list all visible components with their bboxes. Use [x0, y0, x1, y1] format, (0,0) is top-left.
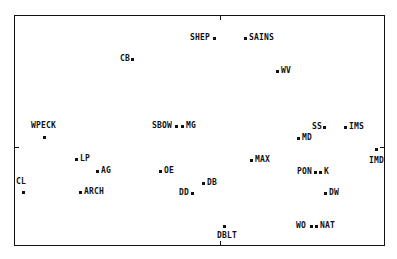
data-point-label: SHEP [190, 34, 210, 42]
data-point-label: PON [297, 168, 312, 176]
data-point-label: K [324, 168, 329, 176]
data-point-marker [319, 171, 322, 174]
data-point-marker [223, 225, 226, 228]
data-point-marker [202, 182, 205, 185]
tick-top [220, 15, 221, 20]
data-point-marker [250, 159, 253, 162]
data-point-label: NAT [320, 222, 335, 230]
data-point-marker [181, 125, 184, 128]
data-point-marker [324, 192, 327, 195]
data-point-label: DBLT [217, 232, 237, 240]
data-point-label: IMS [349, 123, 364, 131]
tick-right [380, 147, 385, 148]
plot-frame [14, 15, 385, 246]
data-point-label: IMD [369, 157, 384, 165]
data-point-marker [344, 126, 347, 129]
data-point-label: LP [80, 155, 90, 163]
tick-left [14, 147, 19, 148]
data-point-label: CL [16, 178, 26, 186]
data-point-marker [22, 191, 25, 194]
data-point-marker [175, 125, 178, 128]
data-point-marker [297, 137, 300, 140]
data-point-label: SS [312, 123, 322, 131]
data-point-label: MG [186, 122, 196, 130]
data-point-marker [96, 170, 99, 173]
data-point-label: WO [296, 222, 306, 230]
data-point-marker [323, 126, 326, 129]
data-point-label: AG [101, 167, 111, 175]
data-point-label: CB [120, 55, 130, 63]
data-point-label: WV [281, 67, 291, 75]
data-point-label: SAINS [249, 34, 274, 42]
data-point-marker [159, 170, 162, 173]
data-point-marker [43, 136, 46, 139]
data-point-marker [244, 37, 247, 40]
data-point-label: DW [329, 189, 339, 197]
data-point-label: SBOW [152, 122, 172, 130]
tick-bottom [220, 241, 221, 246]
data-point-marker [314, 171, 317, 174]
data-point-marker [191, 192, 194, 195]
data-point-label: MD [302, 134, 312, 142]
data-point-marker [310, 225, 313, 228]
data-point-label: DD [179, 189, 189, 197]
data-point-label: ARCH [84, 188, 104, 196]
data-point-marker [79, 191, 82, 194]
data-point-label: WPECK [31, 122, 56, 130]
data-point-marker [276, 70, 279, 73]
data-point-marker [131, 58, 134, 61]
data-point-label: OE [164, 167, 174, 175]
data-point-marker [213, 37, 216, 40]
data-point-marker [315, 225, 318, 228]
data-point-label: MAX [255, 156, 270, 164]
data-point-label: DB [207, 179, 217, 187]
data-point-marker [75, 158, 78, 161]
data-point-marker [375, 148, 378, 151]
